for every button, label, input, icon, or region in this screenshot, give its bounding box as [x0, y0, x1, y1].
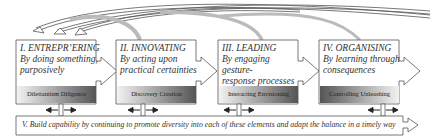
stage-2-bar-label: Discovery Creation	[117, 90, 196, 97]
stage-3-text: III. LEADING By engaging gesture- respon…	[222, 43, 302, 87]
stage-2-subtitle-2: practical certainties	[120, 65, 200, 76]
balance-arrow-1	[46, 104, 76, 116]
stage-3-bar-label: Interacting Envisioning	[219, 90, 298, 97]
stage-1-text: I. ENTREPR’ERING By doing something, pur…	[20, 43, 100, 76]
stage-1-title: I. ENTREPR’ERING	[20, 43, 100, 54]
foundation-text: V. Build capability by continuing to pro…	[22, 120, 396, 129]
balance-arrows	[46, 104, 398, 116]
stage-4-bar-label: Controlling Unleashing	[320, 90, 399, 97]
balance-arrow-2	[128, 104, 158, 116]
balance-arrow-4	[368, 104, 398, 116]
stage-4-title: IV. ORGANISING	[323, 43, 403, 54]
stage-1-subtitle-1: By doing something,	[20, 54, 100, 65]
stage-3-title: III. LEADING	[222, 43, 302, 54]
stage-4-subtitle-1: By learning through	[323, 54, 403, 65]
stage-2-subtitle-1: By acting upon	[120, 54, 200, 65]
connector-bands	[70, 12, 360, 40]
balance-arrow-3	[224, 104, 254, 116]
stage-4-subtitle-2: consequences	[323, 65, 403, 76]
stage-2-text: II. INNOVATING By acting upon practical …	[120, 43, 200, 76]
stage-3-subtitle-2: response processes	[222, 76, 302, 87]
stage-4-text: IV. ORGANISING By learning through conse…	[323, 43, 403, 76]
stage-3-subtitle-1: By engaging gesture-	[222, 54, 302, 76]
stage-1-bar-label: Dilettantism Diligence	[17, 90, 96, 97]
stage-2-title: II. INNOVATING	[120, 43, 200, 54]
stage-1-subtitle-2: purposively	[20, 65, 100, 76]
